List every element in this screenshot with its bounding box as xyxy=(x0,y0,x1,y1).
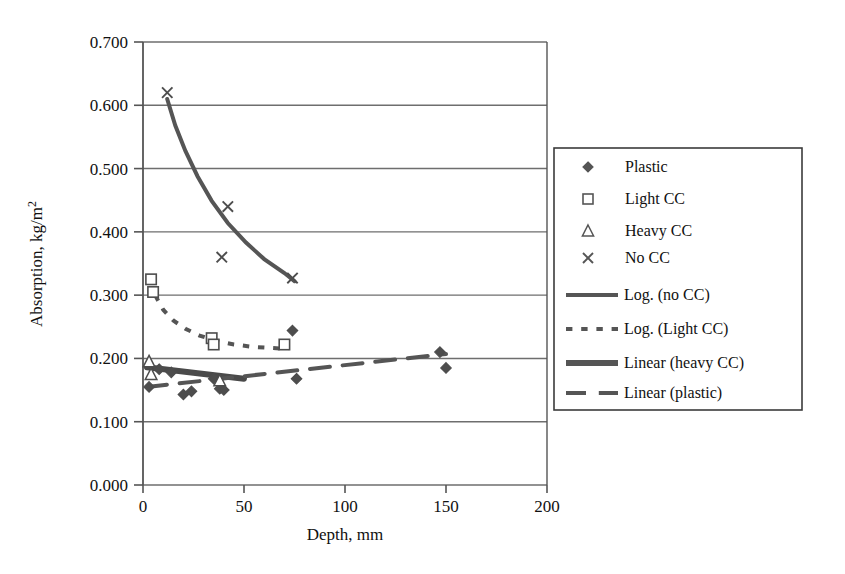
chart-canvas: 050100150200 0.0000.1000.2000.3000.4000.… xyxy=(0,0,845,574)
x-tick-label: 0 xyxy=(139,497,148,516)
legend-label: Light CC xyxy=(625,190,685,208)
y-tick-label: 0.100 xyxy=(90,413,128,432)
y-axis-title: Absorption, kg/m2 xyxy=(25,201,46,327)
marker-open-square xyxy=(279,339,289,349)
legend-label: Heavy CC xyxy=(625,222,692,240)
marker-open-square xyxy=(583,194,593,204)
x-axis-title: Depth, mm xyxy=(307,525,384,544)
legend-label: Linear (heavy CC) xyxy=(624,354,744,372)
x-tick-label: 150 xyxy=(433,497,459,516)
legend-label: Log. (Light CC) xyxy=(624,320,728,338)
x-tick-label: 100 xyxy=(332,497,358,516)
legend-label: Linear (plastic) xyxy=(624,384,722,402)
y-tick-label: 0.500 xyxy=(90,160,128,179)
x-tick-label: 200 xyxy=(534,497,560,516)
legend-label: Plastic xyxy=(625,158,668,175)
legend-label: Log. (no CC) xyxy=(624,286,710,304)
marker-open-square xyxy=(148,287,158,297)
y-tick-label: 0.400 xyxy=(90,223,128,242)
legend-label: No CC xyxy=(625,249,670,266)
chart-legend: PlasticLight CCHeavy CCNo CCLog. (no CC)… xyxy=(554,148,802,410)
x-tick-label: 50 xyxy=(236,497,253,516)
y-tick-label: 0.700 xyxy=(90,33,128,52)
absorption-depth-chart: 050100150200 0.0000.1000.2000.3000.4000.… xyxy=(0,0,845,574)
y-tick-label: 0.200 xyxy=(90,349,128,368)
y-tick-label: 0.000 xyxy=(90,476,128,495)
marker-open-square xyxy=(209,339,219,349)
marker-open-square xyxy=(146,274,156,284)
y-tick-label: 0.600 xyxy=(90,96,128,115)
y-tick-label: 0.300 xyxy=(90,286,128,305)
